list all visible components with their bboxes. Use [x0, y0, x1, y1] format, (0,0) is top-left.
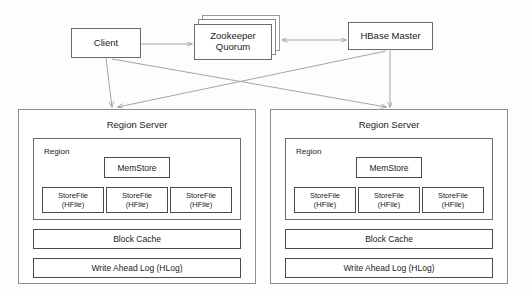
region-1[interactable]: Region MemStore StoreFile (HFile) StoreF… [33, 138, 241, 220]
zookeeper-label-line2: Quorum [210, 42, 255, 53]
storefile-row-1: StoreFile (HFile) StoreFile (HFile) Stor… [42, 187, 232, 213]
hbase-master-node[interactable]: HBase Master [348, 22, 433, 50]
storefile-2-2[interactable]: StoreFile (HFile) [358, 187, 420, 213]
wire-client-to-region-server-2 [112, 59, 386, 107]
write-ahead-log-2-label: Write Ahead Log (HLog) [343, 263, 434, 273]
region-2-label: Region [296, 147, 321, 156]
block-cache-2[interactable]: Block Cache [285, 229, 493, 249]
block-cache-1[interactable]: Block Cache [33, 229, 241, 249]
region-server-2[interactable]: Region Server Region MemStore StoreFile … [270, 109, 508, 284]
storefile-2-1[interactable]: StoreFile (HFile) [294, 187, 356, 213]
storefile-1-1[interactable]: StoreFile (HFile) [42, 187, 104, 213]
storefile-2-1-line1: StoreFile [310, 191, 340, 200]
storefile-1-2-line1: StoreFile [122, 191, 152, 200]
write-ahead-log-1-label: Write Ahead Log (HLog) [91, 263, 182, 273]
region-server-1[interactable]: Region Server Region MemStore StoreFile … [18, 109, 256, 284]
storefile-1-3-line1: StoreFile [186, 191, 216, 200]
storefile-row-2: StoreFile (HFile) StoreFile (HFile) Stor… [294, 187, 484, 213]
write-ahead-log-2[interactable]: Write Ahead Log (HLog) [285, 258, 493, 278]
region-2[interactable]: Region MemStore StoreFile (HFile) StoreF… [285, 138, 493, 220]
storefile-1-2[interactable]: StoreFile (HFile) [106, 187, 168, 213]
region-server-2-title: Region Server [271, 119, 507, 130]
hbase-architecture-diagram: Client Zookeeper Quorum HBase Master Reg… [0, 0, 532, 294]
region-1-label: Region [44, 147, 69, 156]
storefile-1-1-line1: StoreFile [58, 191, 88, 200]
storefile-1-3-line2: (HFile) [190, 200, 213, 209]
block-cache-1-label: Block Cache [113, 234, 161, 244]
block-cache-2-label: Block Cache [365, 234, 413, 244]
storefile-1-2-line2: (HFile) [126, 200, 149, 209]
hbase-master-label: HBase Master [360, 31, 420, 42]
storefile-2-3-line1: StoreFile [438, 191, 468, 200]
storefile-2-2-line1: StoreFile [374, 191, 404, 200]
storefile-1-3[interactable]: StoreFile (HFile) [170, 187, 232, 213]
wire-client-to-region-server-1 [106, 58, 112, 107]
zookeeper-quorum-node[interactable]: Zookeeper Quorum [194, 24, 272, 60]
storefile-2-3[interactable]: StoreFile (HFile) [422, 187, 484, 213]
memstore-1-label: MemStore [117, 163, 156, 173]
storefile-2-1-line2: (HFile) [314, 200, 337, 209]
memstore-2[interactable]: MemStore [356, 157, 422, 178]
region-server-1-title: Region Server [19, 119, 255, 130]
memstore-1[interactable]: MemStore [104, 157, 170, 178]
storefile-1-1-line2: (HFile) [62, 200, 85, 209]
client-node[interactable]: Client [71, 28, 141, 58]
memstore-2-label: MemStore [369, 163, 408, 173]
write-ahead-log-1[interactable]: Write Ahead Log (HLog) [33, 258, 241, 278]
storefile-2-3-line2: (HFile) [442, 200, 465, 209]
client-label: Client [94, 38, 118, 49]
storefile-2-2-line2: (HFile) [378, 200, 401, 209]
